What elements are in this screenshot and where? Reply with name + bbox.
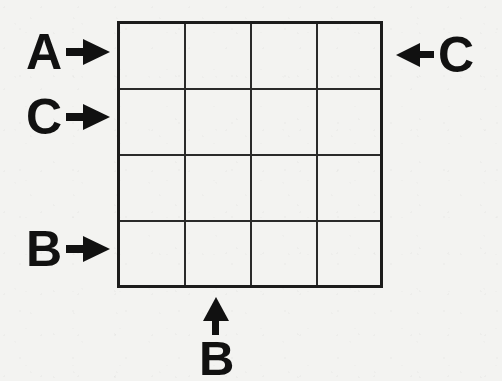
right-label-letter-c: C xyxy=(438,33,473,77)
arrow-right-icon xyxy=(66,39,110,65)
grid-horizontal-line-2 xyxy=(120,154,380,156)
left-label-row-4: B xyxy=(26,227,110,271)
arrow-left-icon xyxy=(396,43,434,67)
arrow-head xyxy=(83,236,110,262)
left-label-letter-a: A xyxy=(26,30,61,74)
arrow-head xyxy=(83,39,110,65)
left-label-letter-c: C xyxy=(26,95,61,139)
grid-table xyxy=(117,21,383,288)
diagram-canvas: A C B C xyxy=(0,0,502,381)
grid-horizontal-line-3 xyxy=(120,220,380,222)
arrow-up-icon xyxy=(203,297,229,335)
bottom-label-letter-b: B xyxy=(199,337,233,379)
arrow-shaft xyxy=(414,51,434,58)
arrow-head xyxy=(83,104,110,130)
right-label-row-1: C xyxy=(396,33,478,77)
bottom-label-column-2: B xyxy=(199,297,233,379)
left-label-row-1: A xyxy=(26,30,110,74)
arrow-shaft xyxy=(212,313,219,335)
left-label-row-2: C xyxy=(26,95,110,139)
left-label-letter-b: B xyxy=(26,227,61,271)
arrow-right-icon xyxy=(66,104,110,130)
arrow-right-icon xyxy=(66,236,110,262)
grid-horizontal-line-1 xyxy=(120,88,380,90)
